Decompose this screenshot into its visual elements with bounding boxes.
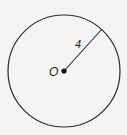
center-label: O <box>49 65 58 79</box>
diagram-svg: O 4 <box>0 0 127 135</box>
radius-segment <box>64 29 102 71</box>
circle-diagram: O 4 <box>0 0 127 135</box>
radius-label: 4 <box>75 38 81 50</box>
center-point <box>61 68 66 73</box>
